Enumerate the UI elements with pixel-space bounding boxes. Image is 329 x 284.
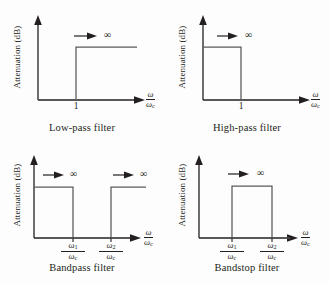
x-tick-label-2: ω2 ωc bbox=[99, 241, 123, 261]
low-pass-svg bbox=[0, 0, 164, 142]
y-axis-arrowhead bbox=[30, 155, 38, 165]
y-axis-label: Attenuation (dB) bbox=[177, 9, 187, 105]
x-axis-arrowhead bbox=[130, 234, 141, 242]
x-axis-label: ω ωc bbox=[301, 228, 310, 247]
x-axis-label: ω ωc bbox=[311, 90, 320, 109]
infinity-annotation: ∞ bbox=[104, 29, 111, 40]
high-pass-plot bbox=[165, 0, 329, 142]
x-tick-label-1: ω1 ωc bbox=[61, 241, 85, 261]
y-axis-arrowhead bbox=[195, 155, 203, 165]
response-curve-right bbox=[111, 187, 146, 238]
chart-bandpass: Attenuation (dB) ∞ ∞ ω1 ωc ω2 ωc ω ωc Ba… bbox=[0, 142, 164, 284]
x-axis-arrowhead bbox=[134, 96, 145, 104]
infinity-arrow-head-left bbox=[54, 171, 64, 178]
infinity-annotation: ∞ bbox=[245, 29, 252, 40]
chart-bandstop: Attenuation (dB) ∞ ω1 ωc ω2 ωc ω ωc Band… bbox=[165, 142, 329, 284]
chart-low-pass: Attenuation (dB) ∞ 1 ω ωc Low-pass filte… bbox=[0, 0, 164, 142]
infinity-arrow-head bbox=[239, 170, 249, 177]
x-tick-1-denominator: ωc bbox=[61, 252, 85, 262]
chart-caption: High-pass filter bbox=[165, 122, 329, 133]
x-tick-2-denominator: ωc bbox=[260, 252, 284, 262]
infinity-annotation: ∞ bbox=[257, 167, 264, 178]
infinity-annotation-right: ∞ bbox=[140, 168, 147, 179]
chart-caption: Low-pass filter bbox=[0, 122, 164, 133]
y-axis-arrowhead bbox=[34, 15, 42, 25]
x-tick-1-denominator: ωc bbox=[220, 252, 244, 262]
response-curve bbox=[38, 47, 137, 100]
x-axis-label-denominator: ωc bbox=[144, 238, 153, 248]
y-axis-label: Attenuation (dB) bbox=[177, 147, 187, 243]
infinity-annotation-left: ∞ bbox=[70, 168, 77, 179]
infinity-arrow-head bbox=[228, 32, 238, 39]
chart-caption: Bandpass filter bbox=[0, 262, 164, 273]
response-curve bbox=[203, 47, 241, 100]
x-axis-label-denominator: ωc bbox=[146, 100, 155, 110]
x-tick-label-1: 1 bbox=[234, 101, 248, 111]
y-axis-label: Attenuation (dB) bbox=[12, 147, 22, 243]
chart-caption: Bandstop filter bbox=[165, 262, 329, 273]
y-axis-arrowhead bbox=[199, 15, 207, 25]
chart-high-pass: Attenuation (dB) ∞ 1 ω ωc High-pass filt… bbox=[165, 0, 329, 142]
x-axis-label-denominator: ωc bbox=[311, 100, 320, 110]
x-tick-2-denominator: ωc bbox=[99, 252, 123, 262]
x-axis-label: ω ωc bbox=[146, 90, 155, 109]
x-tick-label-2: ω2 ωc bbox=[260, 241, 284, 261]
x-tick-label-1: 1 bbox=[69, 101, 83, 111]
y-axis-label: Attenuation (dB) bbox=[12, 9, 22, 105]
x-tick-label-1: ω1 ωc bbox=[220, 241, 244, 261]
x-axis-label-denominator: ωc bbox=[301, 238, 310, 248]
low-pass-plot bbox=[0, 0, 164, 142]
filter-response-figure: Attenuation (dB) ∞ 1 ω ωc Low-pass filte… bbox=[0, 0, 329, 284]
x-axis-arrowhead bbox=[299, 96, 310, 104]
high-pass-svg bbox=[165, 0, 329, 142]
response-curve-left bbox=[34, 187, 73, 238]
infinity-arrow-head-right bbox=[124, 171, 134, 178]
x-axis-label: ω ωc bbox=[144, 228, 153, 247]
response-curve bbox=[203, 186, 290, 238]
infinity-arrow-head bbox=[87, 32, 97, 39]
